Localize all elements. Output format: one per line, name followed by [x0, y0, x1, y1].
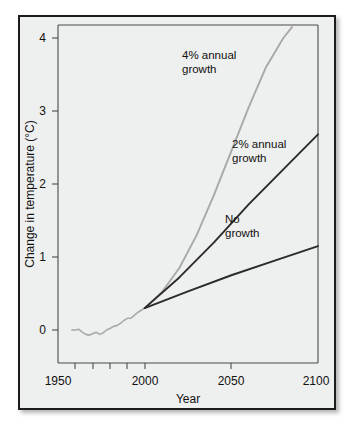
x-tick-label-2100: 2100 [303, 374, 330, 388]
label-4pct-growth-line2: growth [182, 63, 217, 75]
label-4pct-growth-line1: 4% annual [182, 49, 236, 61]
y-tick-label-1: 1 [39, 250, 46, 264]
figure-card: 0 1 2 3 4 Change in temperature (°C) 195… [18, 15, 336, 410]
x-tick-label-2050: 2050 [218, 374, 245, 388]
y-axis-title: Change in temperature (°C) [23, 120, 37, 268]
x-tick-label-1950: 1950 [45, 374, 72, 388]
series-no-growth [145, 246, 318, 308]
series-historical [72, 308, 145, 335]
label-2pct-growth-line2: growth [232, 152, 267, 164]
y-tick-label-4: 4 [39, 31, 46, 45]
y-tick-label-3: 3 [39, 104, 46, 118]
y-tick-label-2: 2 [39, 177, 46, 191]
x-axis-title: Year [176, 392, 200, 406]
y-tick-label-0: 0 [39, 323, 46, 337]
label-no-growth-line1: No [225, 213, 240, 225]
series-4pct-annual-growth [145, 27, 292, 308]
x-tick-label-2000: 2000 [132, 374, 159, 388]
label-2pct-growth-line1: 2% annual [232, 138, 286, 150]
temperature-projection-chart: 0 1 2 3 4 Change in temperature (°C) 195… [20, 17, 334, 408]
label-no-growth-line2: growth [225, 227, 260, 239]
